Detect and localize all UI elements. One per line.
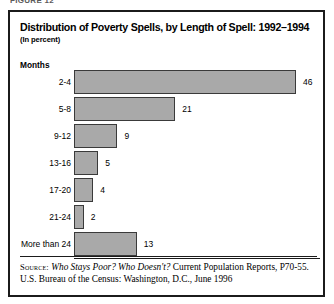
bar bbox=[74, 205, 84, 229]
bar-category-label: 9-12 bbox=[10, 124, 71, 148]
bar-row: More than 2413 bbox=[10, 232, 323, 256]
bar-row: 13-165 bbox=[10, 151, 323, 175]
bar bbox=[74, 232, 137, 256]
bar-value-label: 5 bbox=[105, 151, 110, 175]
bar bbox=[74, 124, 117, 148]
figure-page: FIGURE 12 Distribution of Poverty Spells… bbox=[0, 0, 334, 304]
bar-row: 5-821 bbox=[10, 97, 323, 121]
bar-value-label: 9 bbox=[124, 124, 129, 148]
bar bbox=[74, 70, 296, 94]
figure-frame: Distribution of Poverty Spells, by Lengt… bbox=[8, 10, 325, 297]
bar-row: 17-204 bbox=[10, 178, 323, 202]
bar bbox=[74, 97, 175, 121]
source-keyword: Source: bbox=[20, 262, 49, 272]
x-axis-baseline bbox=[74, 258, 320, 259]
bar-value-label: 4 bbox=[100, 178, 105, 202]
bar-row: 21-242 bbox=[10, 205, 323, 229]
bar-category-label: 17-20 bbox=[10, 178, 71, 202]
bar bbox=[74, 151, 98, 175]
bar-value-label: 46 bbox=[303, 70, 312, 94]
bar-category-label: More than 24 bbox=[10, 232, 71, 256]
source-divider bbox=[20, 256, 317, 257]
figure-caption: FIGURE 12 bbox=[10, 0, 54, 4]
plot-area: 2-4465-8219-12913-16517-20421-242More th… bbox=[10, 70, 323, 258]
bar bbox=[74, 178, 93, 202]
bar-row: 9-129 bbox=[10, 124, 323, 148]
bar-category-label: 5-8 bbox=[10, 97, 71, 121]
bar-category-label: 13-16 bbox=[10, 151, 71, 175]
bar-category-label: 21-24 bbox=[10, 205, 71, 229]
bar-row: 2-446 bbox=[10, 70, 323, 94]
source-title: Who Stays Poor? Who Doesn't? bbox=[51, 262, 170, 272]
bar-value-label: 2 bbox=[91, 205, 96, 229]
bar-category-label: 2-4 bbox=[10, 70, 71, 94]
chart-title: Distribution of Poverty Spells, by Lengt… bbox=[20, 21, 309, 33]
bar-value-label: 21 bbox=[182, 97, 191, 121]
chart-subtitle: (In percent) bbox=[20, 35, 60, 44]
y-axis-title: Months bbox=[20, 60, 50, 70]
bar-value-label: 13 bbox=[144, 232, 153, 256]
source-note: Source: Who Stays Poor? Who Doesn't? Cur… bbox=[20, 262, 320, 285]
